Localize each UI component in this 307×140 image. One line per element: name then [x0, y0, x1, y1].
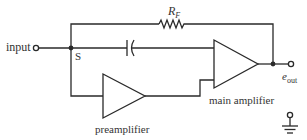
output-terminal [288, 61, 293, 66]
main-amplifier-symbol [214, 40, 258, 88]
circuit-diagram: input S RF eout main amplifier preamplif… [0, 0, 307, 140]
preamplifier-label: preamplifier [95, 123, 149, 135]
feedback-resistor [159, 20, 186, 28]
ground-terminal [287, 112, 292, 117]
preamp-output-wire [145, 80, 214, 96]
output-node [271, 62, 276, 67]
input-terminal [33, 45, 38, 50]
feedback-resistor-label: RF [168, 4, 180, 20]
feedback-wire-left [71, 24, 159, 48]
output-label: eout [282, 70, 297, 85]
input-label: input [6, 40, 31, 55]
summing-node-label: S [75, 50, 81, 62]
main-amplifier-label: main amplifier [209, 94, 274, 106]
schematic-drawing [0, 0, 307, 140]
preamplifier-symbol [103, 74, 145, 118]
